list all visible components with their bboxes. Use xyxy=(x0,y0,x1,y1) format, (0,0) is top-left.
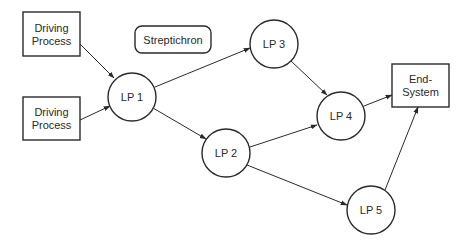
node-lp1-label: LP 1 xyxy=(121,91,143,103)
node-strep-label: Streptichron xyxy=(143,34,202,46)
node-lp2: LP 2 xyxy=(202,129,250,177)
edge-dp2-to-lp1 xyxy=(80,106,110,120)
edges-layer xyxy=(80,44,418,205)
edge-lp1-to-lp2 xyxy=(153,108,206,139)
nodes-layer: DrivingProcessDrivingProcessStreptichron… xyxy=(23,12,449,234)
edge-lp2-to-lp5 xyxy=(247,165,347,205)
node-lp5: LP 5 xyxy=(347,186,395,234)
node-lp4: LP 4 xyxy=(317,92,365,140)
diagram-canvas: DrivingProcessDrivingProcessStreptichron… xyxy=(0,0,469,249)
edge-lp1-to-lp3 xyxy=(155,48,250,87)
node-lp4-label: LP 4 xyxy=(330,110,352,122)
node-lp1: LP 1 xyxy=(108,73,156,121)
node-lp3: LP 3 xyxy=(250,20,298,68)
edge-lp4-to-end xyxy=(364,95,392,106)
node-dp2-label: Driving xyxy=(34,106,68,118)
node-dp2-label: Process xyxy=(32,119,72,131)
node-end-label: System xyxy=(402,86,439,98)
edge-dp1-to-lp1 xyxy=(80,44,114,78)
node-end-label: End- xyxy=(409,73,433,85)
edge-lp5-to-end xyxy=(385,107,418,190)
node-lp2-label: LP 2 xyxy=(215,147,237,159)
node-lp3-label: LP 3 xyxy=(263,38,285,50)
node-dp1: DrivingProcess xyxy=(23,12,80,56)
node-end: End-System xyxy=(392,64,449,107)
node-lp5-label: LP 5 xyxy=(360,204,382,216)
edge-lp3-to-lp4 xyxy=(291,61,327,95)
node-strep: Streptichron xyxy=(135,26,211,53)
node-dp1-label: Driving xyxy=(34,22,68,34)
node-dp1-label: Process xyxy=(32,35,72,47)
edge-lp2-to-lp4 xyxy=(250,125,317,147)
node-dp2: DrivingProcess xyxy=(23,97,80,140)
